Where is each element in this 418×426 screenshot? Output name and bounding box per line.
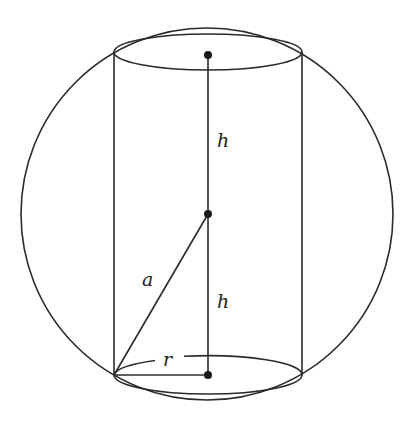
- top-center-point: [204, 51, 212, 59]
- diagram-canvas: h h a r: [0, 0, 418, 426]
- label-a: a: [142, 268, 153, 290]
- label-r: r: [163, 348, 174, 370]
- sphere-center-point: [204, 210, 212, 218]
- cylinder-bottom-ellipse-back-left: [114, 361, 155, 376]
- label-h-lower: h: [217, 290, 229, 312]
- label-h-upper: h: [217, 129, 229, 151]
- cylinder-bottom-ellipse-back-right: [184, 356, 302, 375]
- bottom-center-point: [204, 371, 212, 379]
- sphere-radius-line: [114, 214, 208, 375]
